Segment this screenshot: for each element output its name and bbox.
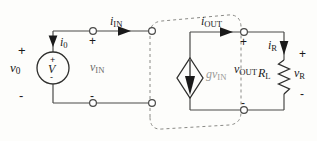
circuit-diagram-canvas: + v0 - + V - i0 iIN + - vIN iOUT gvIN + … bbox=[0, 0, 317, 141]
terminal-node-input-bottom-right bbox=[149, 100, 156, 107]
load-resistor-zigzag bbox=[279, 60, 290, 94]
terminal-node-input-top-right bbox=[149, 28, 156, 35]
polarity-plus-vIN: + bbox=[89, 35, 96, 47]
polarity-plus-vOUT: + bbox=[240, 36, 247, 48]
polarity-plus-v0: + bbox=[18, 44, 26, 57]
label-vIN: vIN bbox=[90, 61, 104, 75]
label-v0: v0 bbox=[10, 61, 20, 76]
polarity-minus-vOUT: - bbox=[241, 97, 245, 109]
label-vOUT: vOUT bbox=[234, 63, 257, 77]
source-inner-minus: - bbox=[50, 73, 53, 82]
label-vR: vR bbox=[294, 67, 305, 81]
polarity-minus-vR: - bbox=[300, 88, 304, 100]
label-RL: RL bbox=[258, 67, 271, 81]
label-iR: iR bbox=[268, 39, 277, 53]
polarity-minus-v0: - bbox=[19, 89, 23, 102]
label-gvIN: gvIN bbox=[206, 68, 226, 82]
label-iIN: iIN bbox=[110, 15, 122, 29]
label-i0: i0 bbox=[60, 36, 68, 50]
label-iOUT: iOUT bbox=[201, 15, 222, 29]
current-arrow-i0 bbox=[49, 36, 58, 48]
polarity-plus-vR: + bbox=[299, 48, 306, 60]
current-arrow-iR bbox=[280, 41, 289, 55]
polarity-minus-vIN: - bbox=[90, 90, 94, 102]
